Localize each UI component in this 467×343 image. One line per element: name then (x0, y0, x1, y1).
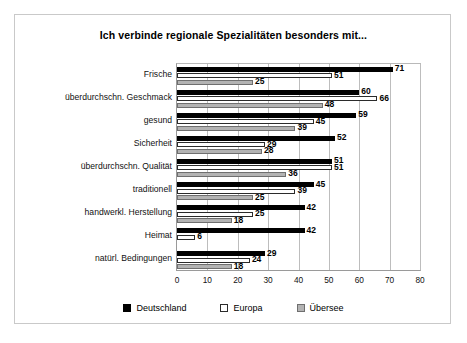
category-axis: Frischeüberdurchschn. GeschmackgesundSic… (15, 63, 172, 271)
category-label: überdurchschn. Qualität (81, 161, 172, 171)
x-axis: 01020304050607080 (176, 273, 421, 289)
bar-value-label: 25 (255, 77, 264, 85)
bar-value-label: 39 (297, 186, 306, 194)
bar (177, 136, 335, 141)
bar-value-label: 6 (197, 232, 202, 240)
bar (177, 205, 305, 210)
bar-group: 715125 (177, 64, 420, 87)
bar-value-label: 24 (252, 255, 261, 263)
bar-group: 515136 (177, 156, 420, 179)
bar-value-label: 45 (316, 117, 325, 125)
bar (177, 119, 314, 124)
bar (177, 103, 323, 108)
bar (177, 113, 356, 118)
x-tick-label: 60 (355, 275, 364, 285)
bar (177, 228, 305, 233)
bar (177, 182, 314, 187)
bar-value-label: 59 (358, 110, 367, 118)
chart-legend: DeutschlandEuropaÜbersee (15, 303, 452, 313)
category-label: natürl. Bedingungen (95, 253, 172, 263)
category-label: gesund (144, 115, 172, 125)
bar-value-label: 51 (334, 71, 343, 79)
legend-item[interactable]: Übersee (297, 303, 344, 313)
bar-group: 422518 (177, 203, 420, 226)
bar (177, 67, 393, 72)
bar (177, 264, 232, 269)
legend-item[interactable]: Deutschland (123, 303, 186, 313)
bar (177, 218, 232, 223)
x-tick-label: 80 (415, 275, 424, 285)
bar-value-label: 18 (234, 262, 243, 270)
bar-value-label: 36 (288, 169, 297, 177)
bar (177, 142, 265, 147)
bar-value-label: 42 (307, 203, 316, 211)
bar-group: 594539 (177, 110, 420, 133)
bar-group: 606648 (177, 87, 420, 110)
category-label: Sicherheit (134, 138, 172, 148)
bar (177, 159, 332, 164)
chart-title: Ich verbinde regionale Spezialitäten bes… (15, 29, 452, 41)
legend-label: Übersee (310, 303, 344, 313)
category-label: überdurchschn. Geschmack (65, 92, 172, 102)
bar-value-label: 60 (361, 87, 370, 95)
bar (177, 235, 195, 240)
plot-area: 7151256066485945395229285151364539254225… (176, 63, 421, 271)
gridline (420, 64, 421, 270)
x-tick-label: 70 (385, 275, 394, 285)
category-label: handwerkl. Herstellung (85, 207, 172, 217)
bar-value-label: 48 (325, 100, 334, 108)
bar-value-label: 29 (267, 249, 276, 257)
x-tick-label: 40 (294, 275, 303, 285)
legend-label: Europa (233, 303, 262, 313)
bar-value-label: 18 (234, 216, 243, 224)
bar-value-label: 25 (255, 193, 264, 201)
bar (177, 165, 332, 170)
bar (177, 96, 377, 101)
legend-swatch-icon (220, 304, 228, 312)
x-tick-label: 20 (233, 275, 242, 285)
bar-group: 522928 (177, 133, 420, 156)
bar-group: 292418 (177, 249, 420, 272)
bar-group: 426 (177, 226, 420, 249)
bar-value-label: 52 (337, 133, 346, 141)
category-label: Heimat (145, 230, 172, 240)
legend-label: Deutschland (136, 303, 186, 313)
bar-value-label: 25 (255, 209, 264, 217)
bar-groups: 7151256066485945395229285151364539254225… (177, 64, 420, 270)
category-label: traditionell (133, 184, 172, 194)
bar-value-label: 51 (334, 163, 343, 171)
bar (177, 172, 286, 177)
x-tick-label: 50 (324, 275, 333, 285)
x-tick-label: 30 (264, 275, 273, 285)
bar (177, 149, 262, 154)
x-tick-label: 10 (203, 275, 212, 285)
bar-value-label: 71 (395, 64, 404, 72)
bar (177, 126, 295, 131)
bar (177, 195, 253, 200)
bar-value-label: 39 (297, 123, 306, 131)
bar-group: 453925 (177, 180, 420, 203)
legend-item[interactable]: Europa (220, 303, 262, 313)
x-tick-label: 0 (175, 275, 180, 285)
bar-value-label: 28 (264, 146, 273, 154)
bar (177, 80, 253, 85)
bar-value-label: 66 (379, 94, 388, 102)
legend-swatch-icon (297, 304, 305, 312)
category-label: Frische (144, 69, 172, 79)
legend-swatch-icon (123, 304, 131, 312)
bar-value-label: 45 (316, 180, 325, 188)
bar (177, 90, 359, 95)
bar-value-label: 42 (307, 226, 316, 234)
bar (177, 189, 295, 194)
chart-frame: Ich verbinde regionale Spezialitäten bes… (14, 14, 451, 324)
